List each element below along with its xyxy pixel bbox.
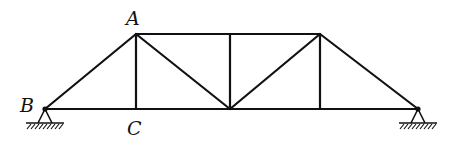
supports <box>26 107 437 129</box>
truss-diagram: A B C <box>0 0 461 144</box>
label-c: C <box>127 117 142 139</box>
member-FE <box>320 34 418 109</box>
member-BA <box>45 34 136 109</box>
pin-support-E <box>399 107 437 129</box>
label-b: B <box>19 94 34 116</box>
truss-members <box>45 34 418 109</box>
label-a: A <box>124 7 140 29</box>
member-FM <box>230 34 320 109</box>
member-AM <box>136 34 230 109</box>
